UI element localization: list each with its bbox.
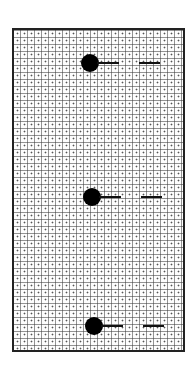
marker-dash — [143, 325, 164, 327]
marker-line — [101, 325, 123, 327]
marker-line — [99, 196, 121, 198]
marker-dash — [141, 196, 162, 198]
marker-line — [97, 62, 119, 64]
marker-dash — [139, 62, 160, 64]
